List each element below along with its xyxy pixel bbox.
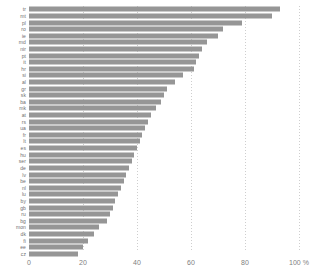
category-label: md [0,39,26,45]
category-label: mon [0,224,26,230]
category-label: lv [0,172,26,178]
category-label: rs [0,119,26,125]
bar [29,198,115,203]
bar-row: mon [0,224,313,231]
bar [29,185,121,190]
bar [29,20,242,25]
bar-row: mt [0,13,313,20]
bar-row: si [0,72,313,79]
category-label: nl [0,185,26,191]
bar [29,60,196,65]
bar-row: ro [0,26,313,33]
x-tick-label: 40 [133,258,141,267]
category-label: ba [0,99,26,105]
category-label: sk [0,92,26,98]
bar [29,205,113,210]
bar [29,225,99,230]
category-label: al [0,79,26,85]
bar [29,33,218,38]
bar-row: lt [0,138,313,145]
bar [29,73,183,78]
bar [29,159,132,164]
category-label: mk [0,105,26,111]
category-label: de [0,165,26,171]
bar-rows: trmtplroiemdnirptithrsialgrskbamkatrsuaf… [0,6,313,257]
bar [29,99,161,104]
bar [29,132,142,137]
bar [29,232,94,237]
bar-row: ee [0,244,313,251]
category-label: at [0,112,26,118]
x-tick-label: 80 [241,258,249,267]
category-label: hr [0,66,26,72]
category-label: by [0,198,26,204]
bar-row: tr [0,6,313,13]
bar-row: nl [0,184,313,191]
category-label: gr [0,86,26,92]
bar [29,66,194,71]
category-label: ua [0,125,26,131]
bar [29,139,140,144]
bar-row: at [0,112,313,119]
category-label: ro [0,26,26,32]
category-label: es [0,145,26,151]
plot-area: trmtplroiemdnirptithrsialgrskbamkatrsuaf… [0,0,313,250]
bar-row: dk [0,231,313,238]
bar [29,179,124,184]
bar-row: ie [0,32,313,39]
bar [29,218,107,223]
bar-row: pl [0,19,313,26]
bar [29,13,272,18]
bar [29,27,223,32]
bar-row: es [0,145,313,152]
bar [29,192,118,197]
category-label: it [0,59,26,65]
bar [29,172,126,177]
bar-row: al [0,79,313,86]
bar-row: bg [0,218,313,225]
category-label: tr [0,6,26,12]
category-label: ru [0,211,26,217]
bar [29,119,148,124]
category-label: si [0,72,26,78]
x-tick-label: 20 [79,258,87,267]
bar-row: gb [0,204,313,211]
bar [29,126,145,131]
bar-row: it [0,59,313,66]
bar-row: gr [0,85,313,92]
category-label: ee [0,244,26,250]
category-label: bg [0,218,26,224]
category-label: hu [0,152,26,158]
bar-row: hu [0,151,313,158]
category-label: gb [0,205,26,211]
category-label: fr [0,132,26,138]
bar-row: fi [0,237,313,244]
x-axis: 020406080100 % [0,252,313,276]
bar [29,53,199,58]
category-label: fi [0,238,26,244]
bar-row: nir [0,46,313,53]
category-label: pl [0,20,26,26]
category-label: ie [0,33,26,39]
bar-row: ba [0,99,313,106]
category-label: ser [0,158,26,164]
bar-row: rs [0,118,313,125]
category-label: pt [0,53,26,59]
bar [29,113,151,118]
x-tick-label: 60 [187,258,195,267]
bar [29,165,129,170]
bar [29,245,83,250]
bar-row: hr [0,65,313,72]
bar-row: de [0,165,313,172]
bar-row: lv [0,171,313,178]
category-label: mt [0,13,26,19]
x-tick-label: 100 % [289,258,309,267]
bar [29,238,88,243]
bar-row: by [0,198,313,205]
bar-row: mk [0,105,313,112]
bar-row: pt [0,52,313,59]
bar-row: ua [0,125,313,132]
bar-row: lu [0,191,313,198]
category-label: be [0,178,26,184]
x-tick-label: 0 [27,258,31,267]
